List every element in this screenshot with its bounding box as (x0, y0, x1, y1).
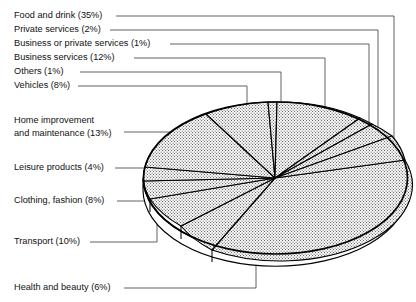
label-home-improvement-line1: Home improvement (14, 115, 95, 125)
pie-chart-canvas: Food and drink (35%) Private services (2… (0, 0, 416, 302)
label-private-services: Private services (2%) (14, 24, 101, 34)
leader-line-transport (90, 219, 157, 242)
label-clothing-fashion: Clothing, fashion (8%) (14, 195, 104, 205)
label-food-and-drink: Food and drink (35%) (14, 10, 102, 20)
label-transport: Transport (10%) (14, 236, 80, 246)
label-business-services: Business services (12%) (14, 52, 115, 62)
label-health-and-beauty: Health and beauty (6%) (14, 282, 111, 292)
leader-line-others (80, 72, 281, 101)
label-others: Others (1%) (14, 66, 64, 76)
label-leisure-products: Leisure products (4%) (14, 162, 104, 172)
label-home-improvement-line2: and maintenance (13%) (14, 128, 112, 138)
label-group: Food and drink (35%) Private services (2… (14, 10, 150, 292)
pie-chart-figure: Food and drink (35%) Private services (2… (0, 0, 416, 302)
label-business-or-private-services: Business or private services (1%) (14, 38, 150, 48)
label-vehicles: Vehicles (8%) (14, 80, 70, 90)
